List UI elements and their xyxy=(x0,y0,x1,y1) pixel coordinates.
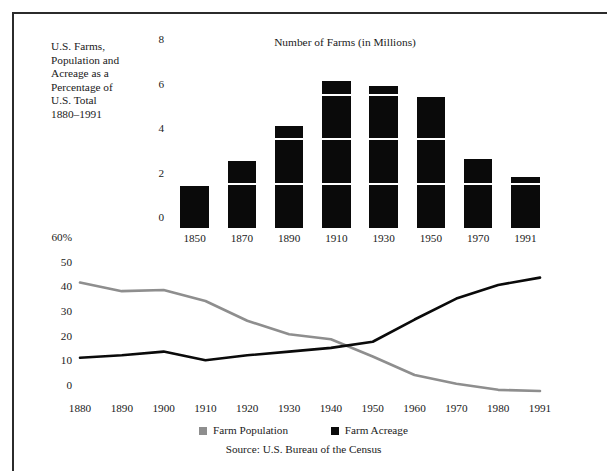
frame-left-rule xyxy=(12,12,14,471)
bar xyxy=(369,86,397,228)
bar-segment-rule xyxy=(369,183,397,185)
line-chart-x-tick-label: 1970 xyxy=(445,402,467,414)
legend-item-farm-acreage: Farm Acreage xyxy=(331,424,408,436)
line-series-farm-population xyxy=(80,283,540,392)
bar-segment-rule xyxy=(511,183,539,185)
frame-top-rule xyxy=(12,12,607,14)
legend-swatch-farm-acreage-icon xyxy=(331,427,339,435)
bar-column: 1970 xyxy=(464,50,492,228)
line-chart-x-tick-label: 1910 xyxy=(194,402,216,414)
legend-swatch-farm-population-icon xyxy=(199,427,207,435)
line-chart-x-tick-label: 1950 xyxy=(362,402,384,414)
bar-column: 1890 xyxy=(275,50,303,228)
legend-item-farm-population: Farm Population xyxy=(199,424,288,436)
figure-page: U.S. Farms, Population and Acreage as a … xyxy=(0,0,607,471)
bar-segment-rule xyxy=(369,138,397,140)
bar-chart-plot-area: 0246818501870189019101930195019701991 xyxy=(171,50,549,228)
bar-segment-rule xyxy=(417,183,445,185)
bar-segment-rule xyxy=(228,183,256,185)
source-note: Source: U.S. Bureau of the Census xyxy=(0,443,607,455)
bar-segment-rule xyxy=(369,94,397,96)
bar-column: 1850 xyxy=(180,50,208,228)
bar xyxy=(511,177,539,228)
bar xyxy=(464,159,492,228)
line-chart-x-tick-label: 1900 xyxy=(152,402,174,414)
legend-label-farm-acreage: Farm Acreage xyxy=(345,424,408,436)
bar-column: 1870 xyxy=(228,50,256,228)
bar-segment-rule xyxy=(322,94,350,96)
line-chart-y-tick-label: 60% xyxy=(51,232,72,243)
line-chart-svg xyxy=(80,248,540,396)
bar-column: 1930 xyxy=(369,50,397,228)
bar-column: 1910 xyxy=(322,50,350,228)
chart-legend: Farm Population Farm Acreage xyxy=(0,424,607,436)
line-chart-y-tick-label: 0 xyxy=(66,380,72,391)
bar-segment-rule xyxy=(417,138,445,140)
bar xyxy=(180,186,208,228)
bar xyxy=(228,161,256,228)
line-chart-y-tick-label: 20 xyxy=(61,330,72,341)
bar-chart-y-tick-label: 6 xyxy=(158,78,164,89)
bar-chart: Number of Farms (in Millions) 0246818501… xyxy=(135,36,555,236)
bar-chart-y-tick-label: 2 xyxy=(158,167,164,178)
bar-segment-rule xyxy=(275,138,303,140)
line-chart-x-tick-label: 1960 xyxy=(403,402,425,414)
bar-segment-rule xyxy=(322,183,350,185)
bar-column: 1950 xyxy=(417,50,445,228)
line-chart-y-tick-label: 30 xyxy=(61,306,72,317)
line-chart-x-tick-label: 1880 xyxy=(69,402,91,414)
bar-segment-rule xyxy=(275,183,303,185)
line-chart: 0102030405060%18801890190019101920193019… xyxy=(36,238,581,423)
line-chart-y-tick-label: 10 xyxy=(61,355,72,366)
line-chart-x-tick-label: 1890 xyxy=(111,402,133,414)
bar xyxy=(275,126,303,228)
bar-segment-rule xyxy=(464,183,492,185)
line-chart-x-tick-label: 1991 xyxy=(529,402,551,414)
bar-chart-y-tick-label: 8 xyxy=(158,34,164,45)
bar-segment-rule xyxy=(322,138,350,140)
bar-column: 1991 xyxy=(511,50,539,228)
line-chart-y-tick-label: 50 xyxy=(61,256,72,267)
legend-label-farm-population: Farm Population xyxy=(213,424,288,436)
line-chart-x-tick-label: 1940 xyxy=(320,402,342,414)
bar-chart-y-tick-label: 4 xyxy=(158,123,164,134)
line-chart-plot-area: 0102030405060%18801890190019101920193019… xyxy=(80,248,540,396)
line-chart-x-tick-label: 1980 xyxy=(487,402,509,414)
line-chart-y-tick-label: 40 xyxy=(61,281,72,292)
line-chart-x-tick-label: 1920 xyxy=(236,402,258,414)
bar-chart-y-tick-label: 0 xyxy=(158,212,164,223)
line-chart-x-tick-label: 1930 xyxy=(278,402,300,414)
bar xyxy=(322,81,350,228)
bar xyxy=(417,97,445,228)
bar-chart-title: Number of Farms (in Millions) xyxy=(135,36,555,48)
